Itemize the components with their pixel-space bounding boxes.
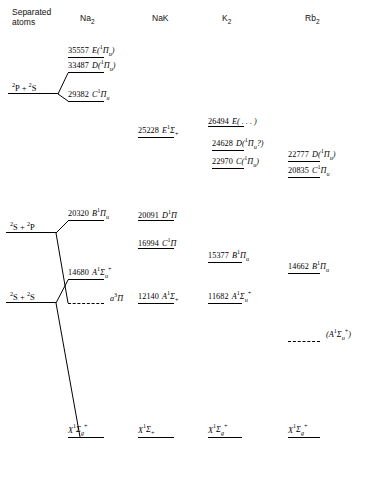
level-rb2-C-energy: 20835 <box>288 166 309 175</box>
level-na2-a-bar <box>68 303 104 304</box>
level-rb2-X: X1Σg+ <box>288 437 320 438</box>
k2-subscript: 2 <box>228 18 232 25</box>
level-nak-D: 20091D1Π <box>138 220 174 221</box>
na2-subscript: 2 <box>91 18 95 25</box>
level-nak-A-bar <box>138 303 174 304</box>
level-na2-a-triplet: a3Π <box>68 303 104 304</box>
level-rb2-B-energy: 14662 <box>288 262 309 271</box>
na2-label: Na <box>80 13 91 23</box>
level-nak-D-state: 1Π <box>168 211 177 220</box>
level-na2-A-state: 1Σu+ <box>97 268 112 277</box>
level-rb2-D: 22777D(1Πu) <box>288 161 320 162</box>
energy-level-diagram: Separated atoms Na2 NaK K2 Rb2 2P + 2S 2… <box>0 0 376 481</box>
level-nak-C-state: 1Π <box>167 239 176 248</box>
level-k2-A: 11682A1Σu+ <box>208 303 242 304</box>
level-k2-D: 24628D(1Πu?) <box>212 150 244 151</box>
level-k2-C-state: (1Πu) <box>241 157 259 166</box>
level-na2-C-state: 1Πu <box>97 90 109 99</box>
level-na2-A-bar <box>68 279 104 280</box>
level-k2-D-bar <box>212 150 244 151</box>
level-na2-D-bar <box>68 72 104 73</box>
level-k2-D-energy: 24628 <box>212 139 233 148</box>
level-na2-B-state: 1Πu <box>97 209 109 218</box>
level-nak-A: 12140A1Σ+ <box>138 303 174 304</box>
column-header-rb2: Rb2 <box>305 14 320 25</box>
level-na2-D-term: D <box>92 61 98 70</box>
rb2-subscript: 2 <box>316 18 320 25</box>
level-rb2-C-state: 1Πu <box>317 166 329 175</box>
level-k2-C: 22970C(1Πu) <box>212 168 244 169</box>
level-na2-X: X1Σg+ <box>68 437 104 438</box>
level-rb2-D-term: D <box>312 150 318 159</box>
level-na2-E-state: (1Πu) <box>97 46 115 55</box>
level-k2-B-state: 1Πu <box>237 251 249 260</box>
level-k2-B-bar <box>208 262 242 263</box>
level-rb2-A-uncertain: (A1Σu+) <box>288 341 320 342</box>
level-na2-D: 33487D(1Πu) <box>68 72 104 73</box>
level-rb2-B: 14662B1Πu <box>288 273 320 274</box>
level-na2-a-state: 3Π <box>114 294 123 303</box>
level-k2-X-bar <box>208 437 242 438</box>
level-na2-A: 14680A1Σu+ <box>68 279 104 280</box>
level-rb2-B-state: 1Πu <box>317 262 329 271</box>
level-nak-C-energy: 16994 <box>138 239 159 248</box>
level-rb2-B-bar <box>288 273 320 274</box>
separated-limit-2P2S-label: 2P + 2S <box>12 81 36 93</box>
connector-lines <box>0 0 376 481</box>
level-na2-X-state: 1Σg+ <box>73 425 88 434</box>
nak-label: NaK <box>152 13 169 23</box>
level-k2-E-energy: 26494 <box>208 117 229 126</box>
level-na2-D-energy: 33487 <box>68 61 89 70</box>
separated-atoms-line2: atoms <box>12 17 35 27</box>
level-k2-C-bar <box>212 168 244 169</box>
level-k2-D-term: D <box>236 139 242 148</box>
level-nak-X-bar <box>138 437 174 438</box>
column-header-na2: Na2 <box>80 14 95 25</box>
level-rb2-D-state: (1Πu) <box>318 150 336 159</box>
level-rb2-D-energy: 22777 <box>288 150 309 159</box>
level-nak-C: 16994C1Π <box>138 248 174 249</box>
level-k2-E: 26494E( . . . ) <box>208 126 244 127</box>
level-na2-B: 20320B1Πu <box>68 220 104 221</box>
level-nak-X-state: 1Σ+ <box>143 425 154 434</box>
column-header-k2: K2 <box>222 14 231 25</box>
level-nak-A-state: 1Σ+ <box>167 292 178 301</box>
column-header-separated-atoms: Separated atoms <box>12 8 51 28</box>
level-nak-X: X1Σ+ <box>138 437 174 438</box>
level-k2-A-bar <box>208 303 242 304</box>
level-rb2-A-term: (A <box>326 330 334 339</box>
level-nak-E-bar <box>138 137 174 138</box>
level-k2-A-state: 1Σu+ <box>237 292 252 301</box>
level-k2-E-state: ( . . . ) <box>237 117 257 126</box>
level-rb2-A-state: 1Σu+) <box>334 330 351 339</box>
level-na2-C-bar <box>68 101 104 102</box>
level-rb2-D-bar <box>288 161 320 162</box>
level-nak-E-energy: 25228 <box>138 126 159 135</box>
level-nak-D-bar <box>138 220 174 221</box>
level-k2-X-state: 1Σg+ <box>213 425 228 434</box>
separated-atoms-line1: Separated <box>12 7 51 17</box>
level-na2-E-energy: 35557 <box>68 46 89 55</box>
separated-limit-2S2S-label: 2S + 2S <box>10 290 35 302</box>
level-na2-C-energy: 29382 <box>68 90 89 99</box>
level-nak-E-state: 1Σ+ <box>167 126 178 135</box>
level-na2-X-bar <box>68 437 104 438</box>
level-rb2-X-bar <box>288 437 320 438</box>
level-nak-E: 25228E1Σ+ <box>138 137 174 138</box>
level-k2-X: X1Σg+ <box>208 437 242 438</box>
rb2-label: Rb <box>305 13 316 23</box>
level-rb2-X-state: 1Σg+ <box>293 425 308 434</box>
level-na2-A-energy: 14680 <box>68 268 89 277</box>
level-nak-C-bar <box>138 248 174 249</box>
level-na2-B-energy: 20320 <box>68 209 89 218</box>
level-na2-C: 29382C1Πu <box>68 101 104 102</box>
level-rb2-C: 20835C1Πu <box>288 177 320 178</box>
separated-limit-2S2S-bar <box>6 302 56 303</box>
level-k2-E-bar <box>208 126 244 127</box>
separated-limit-2S2P-bar <box>6 232 56 233</box>
level-k2-C-energy: 22970 <box>212 157 233 166</box>
level-rb2-C-bar <box>288 177 320 178</box>
column-header-nak: NaK <box>152 14 169 24</box>
level-k2-D-state: (1Πu?) <box>242 139 264 148</box>
separated-limit-2P2S-bar <box>8 93 58 94</box>
